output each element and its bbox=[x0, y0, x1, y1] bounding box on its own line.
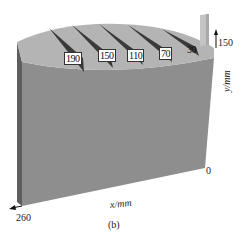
panel-label: (b) bbox=[108, 220, 120, 230]
notch-label-150: 150 bbox=[98, 49, 116, 62]
notch-label-190: 190 bbox=[64, 52, 82, 65]
notch-label-30: 30 bbox=[185, 43, 198, 56]
x-axis-end-tick: 0 bbox=[206, 166, 211, 176]
x-axis-start-tick: 260 bbox=[16, 213, 31, 223]
y-axis-label: y/mm bbox=[222, 70, 232, 92]
block-side-face bbox=[17, 42, 22, 206]
y-axis-top-tick: 150 bbox=[218, 38, 233, 48]
notch-label-70: 70 bbox=[159, 47, 172, 60]
3d-specimen-figure: 190 150 110 70 30 150 y/mm 0 260 x/mm (b… bbox=[0, 0, 247, 237]
notch-label-110: 110 bbox=[127, 49, 144, 62]
block-front-face bbox=[22, 58, 214, 206]
